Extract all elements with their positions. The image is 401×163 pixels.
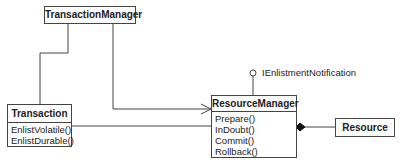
class-name: Resource	[336, 119, 394, 136]
operation: Rollback()	[212, 146, 296, 157]
operations-compartment: Prepare() InDoubt() Commit() Rollback()	[212, 111, 296, 157]
operations-compartment: EnlistVolatile() EnlistDurable()	[8, 122, 71, 146]
class-resource-manager: ResourceManager Prepare() InDoubt() Comm…	[211, 95, 297, 158]
class-name: TransactionManager	[45, 7, 135, 23]
class-name: ResourceManager	[212, 96, 296, 111]
class-transaction: Transaction EnlistVolatile() EnlistDurab…	[7, 104, 72, 147]
class-transaction-manager: TransactionManager	[44, 6, 136, 24]
class-resource: Resource	[335, 118, 395, 137]
interface-label: IEnlistmentNotification	[262, 67, 356, 78]
class-name: Transaction	[8, 105, 71, 122]
operation: EnlistVolatile()	[8, 124, 71, 135]
operation: EnlistDurable()	[8, 135, 71, 146]
operation: InDoubt()	[212, 124, 296, 135]
operation: Prepare()	[212, 113, 296, 124]
operation: Commit()	[212, 135, 296, 146]
